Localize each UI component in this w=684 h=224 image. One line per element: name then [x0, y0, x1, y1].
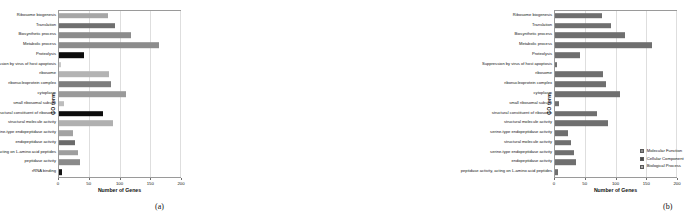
x-tick-label: 150	[147, 181, 154, 186]
x-tick-label: 100	[612, 181, 619, 186]
bar	[555, 91, 620, 97]
category-label: serine-type endopeptidase activity	[490, 150, 552, 154]
bar	[555, 33, 625, 39]
legend-label: Molecular Function	[647, 148, 682, 155]
x-tick-label: 200	[177, 181, 184, 186]
bar	[555, 130, 568, 136]
bar	[555, 23, 611, 29]
x-tick-label: 50	[582, 181, 587, 186]
bar	[555, 62, 557, 68]
category-label: Metabolic process	[519, 42, 552, 46]
legend-swatch	[640, 165, 644, 169]
bar	[555, 150, 574, 156]
legend-label: Biological Process	[647, 163, 681, 170]
bar	[555, 120, 608, 126]
bar	[555, 101, 559, 107]
bar	[555, 111, 597, 117]
x-tick-label: 200	[673, 181, 680, 186]
bar	[555, 52, 580, 58]
legend-swatch	[640, 157, 644, 161]
x-tick-label: 0	[57, 181, 59, 186]
category-label: Proteolysis	[532, 52, 552, 56]
category-label: structural molecule activity	[504, 140, 552, 144]
x-tick-label: 100	[116, 181, 123, 186]
category-label: structural molecule activity	[504, 120, 552, 124]
panel-caption-a: (a)	[155, 202, 164, 211]
category-label: serine-type endopeptidase activity	[490, 130, 552, 134]
legend: Molecular FunctionCellular ComponentBiol…	[640, 148, 684, 171]
x-tick-label: 50	[86, 181, 91, 186]
category-label: Translation	[532, 23, 552, 27]
category-label: endopeptidase activity	[511, 159, 552, 163]
x-tick-label: 150	[643, 181, 650, 186]
x-axis-label-a: Number of Genes	[98, 187, 141, 193]
category-label: ribonucleoprotein complex	[504, 81, 552, 85]
category-label: Biosynthetic process	[514, 32, 552, 36]
x-axis-label-b: Number of Genes	[594, 187, 637, 193]
legend-label: Cellular Component	[647, 156, 684, 163]
legend-item: Cellular Component	[640, 156, 684, 163]
bar	[555, 169, 558, 175]
category-label: ribosome	[535, 71, 552, 75]
category-labels-b: Ribosome biogenesisTranslationBiosynthet…	[0, 10, 554, 178]
legend-item: Molecular Function	[640, 148, 684, 155]
legend-item: Biological Process	[640, 163, 684, 170]
bar	[555, 13, 602, 19]
bar	[555, 81, 606, 87]
panel-caption-b: (b)	[663, 202, 672, 211]
bar	[555, 160, 576, 166]
legend-swatch	[640, 149, 644, 153]
category-label: peptidase activity, acting on L-amino ac…	[461, 169, 552, 173]
panel-b: GO term Ribosome biogenesisTranslationBi…	[248, 0, 496, 224]
category-label: small ribosomal subunit	[509, 101, 552, 105]
category-label: Suppression by virus of host apoptosis	[482, 62, 552, 66]
category-label: structural constituent of ribosome	[492, 110, 552, 114]
x-tick-label: 0	[553, 181, 555, 186]
category-label: cytoplasm	[534, 91, 552, 95]
bar	[555, 140, 571, 146]
category-label: Ribosome biogenesis	[513, 13, 552, 17]
bar	[555, 72, 603, 78]
bar	[555, 42, 652, 48]
